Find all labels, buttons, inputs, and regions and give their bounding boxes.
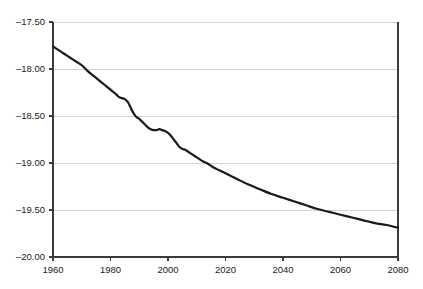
- chart-container: –17.50–18.00–18.50–19.00–19.50–20.00 196…: [0, 0, 423, 289]
- x-axis-tick-label: 2000: [157, 264, 178, 275]
- x-axis-tick-label: 1960: [42, 264, 63, 275]
- y-axis-tick-labels: –17.50–18.00–18.50–19.00–19.50–20.00: [16, 16, 45, 262]
- tick-marks-group: [49, 22, 398, 261]
- x-axis-tick-label: 2040: [272, 264, 293, 275]
- y-axis-tick-label: –19.00: [16, 157, 45, 168]
- y-axis-tick-label: –17.50: [16, 16, 45, 27]
- x-axis-tick-label: 1980: [100, 264, 121, 275]
- y-axis-tick-label: –18.00: [16, 63, 45, 74]
- line-chart: –17.50–18.00–18.50–19.00–19.50–20.00 196…: [0, 0, 423, 289]
- x-axis-tick-label: 2080: [387, 264, 408, 275]
- gridlines-group: [53, 22, 398, 257]
- x-axis-tick-label: 2060: [330, 264, 351, 275]
- y-axis-tick-label: –18.50: [16, 110, 45, 121]
- y-axis-tick-label: –20.00: [16, 251, 45, 262]
- y-axis-tick-label: –19.50: [16, 204, 45, 215]
- x-axis-tick-labels: 1960198020002020204020602080: [42, 264, 408, 275]
- x-axis-tick-label: 2020: [215, 264, 236, 275]
- data-series-line: [53, 46, 398, 227]
